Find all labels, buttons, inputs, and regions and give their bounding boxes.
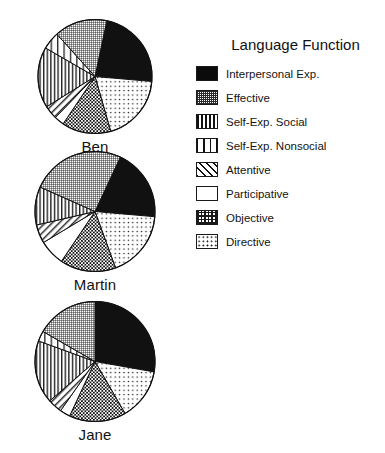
legend-item: Effective [196, 87, 385, 108]
legend-item-label: Self-Exp. Social [226, 115, 307, 129]
legend-swatch-solid-icon [196, 66, 218, 81]
pie-caption-jane: Jane [0, 427, 190, 443]
legend-swatch-dense-grid-icon [196, 90, 218, 105]
legend-item-label: Interpersonal Exp. [226, 67, 319, 81]
pie-slices [38, 20, 152, 134]
pie-chart-column: Ben Martin Jane [0, 0, 190, 453]
pie-chart-figure: Ben Martin Jane Language Function Interp… [0, 0, 385, 453]
legend-swatch-checker-icon [196, 210, 218, 225]
legend-swatch-vline-sparse-icon [196, 138, 218, 153]
legend-swatch-empty-icon [196, 186, 218, 201]
legend-swatch-vline-dense-icon [196, 114, 218, 129]
legend-item-label: Effective [226, 91, 270, 105]
legend: Language Function Interpersonal Exp.Effe… [196, 36, 385, 255]
pie-slices [35, 151, 155, 271]
legend-swatch-dots-icon [196, 234, 218, 249]
legend-item-label: Self-Exp. Nonsocial [226, 139, 326, 153]
pie-svg-martin [25, 150, 165, 276]
legend-item: Self-Exp. Social [196, 111, 385, 132]
legend-swatch-diagonal-icon [196, 162, 218, 177]
pie-chart-ben: Ben [0, 18, 190, 155]
legend-item: Directive [196, 231, 385, 252]
pie-chart-jane: Jane [0, 300, 190, 443]
pie-chart-martin: Martin [0, 150, 190, 293]
legend-item-label: Attentive [226, 163, 271, 177]
legend-item: Self-Exp. Nonsocial [196, 135, 385, 156]
legend-title: Language Function [206, 36, 385, 54]
pie-caption-martin: Martin [0, 277, 190, 293]
pie-slice [95, 302, 155, 372]
legend-item-label: Directive [226, 235, 271, 249]
legend-item: Objective [196, 207, 385, 228]
pie-slices [35, 302, 155, 422]
legend-item: Interpersonal Exp. [196, 63, 385, 84]
pie-svg-ben [25, 18, 165, 138]
legend-item: Participative [196, 183, 385, 204]
pie-svg-jane [25, 300, 165, 426]
legend-item: Attentive [196, 159, 385, 180]
legend-list: Interpersonal Exp.EffectiveSelf-Exp. Soc… [196, 63, 385, 252]
legend-item-label: Objective [226, 211, 274, 225]
legend-item-label: Participative [226, 187, 289, 201]
